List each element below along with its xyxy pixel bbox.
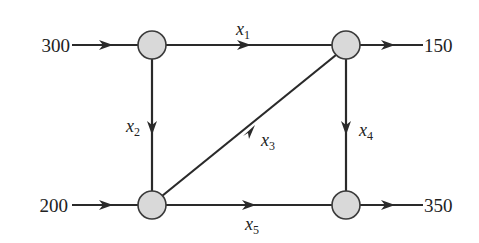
- edge-x4-label: x4: [358, 120, 373, 143]
- outflow-bottom-right-label: 350: [424, 195, 453, 216]
- edge-x4: x4: [341, 59, 373, 191]
- edge-x3-label: x3: [260, 130, 275, 153]
- edge-x3: x3: [162, 55, 336, 196]
- edge-x2-label: x2: [125, 116, 140, 139]
- node-top-left: [138, 31, 166, 59]
- outflow-bottom-right: 350: [360, 195, 453, 216]
- edge-x5-label: x5: [244, 214, 259, 237]
- edge-x2: x2: [125, 59, 157, 191]
- edge-x1: x1: [166, 19, 332, 50]
- inflow-bottom-left-label: 200: [40, 195, 69, 216]
- outflow-top-right-label: 150: [424, 35, 453, 56]
- edge-x1-label: x1: [235, 19, 250, 42]
- node-bottom-left: [138, 191, 166, 219]
- node-bottom-right: [332, 191, 360, 219]
- inflow-bottom-left: 200: [40, 195, 139, 216]
- inflow-top-left-label: 300: [42, 35, 71, 56]
- arrow-diagonal-icon: [243, 125, 255, 139]
- inflow-top-left: 300: [42, 35, 139, 56]
- node-top-right: [332, 31, 360, 59]
- network-flow-diagram: 300 200 150 350 x1 x2 x3 x4: [0, 0, 479, 243]
- edge-x5: x5: [166, 200, 332, 237]
- outflow-top-right: 150: [360, 35, 453, 56]
